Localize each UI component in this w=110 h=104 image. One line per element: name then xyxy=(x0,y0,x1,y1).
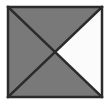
square-with-diagonals-figure xyxy=(0,0,110,104)
figure-canvas xyxy=(0,0,110,104)
